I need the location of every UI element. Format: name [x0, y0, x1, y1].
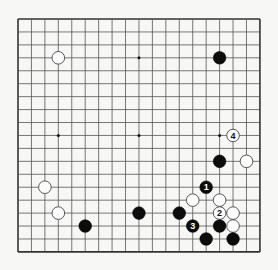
- white-stone-icon: [39, 181, 52, 194]
- white-stone: [39, 181, 52, 194]
- white-stone: [52, 52, 65, 65]
- star-point-icon: [218, 134, 221, 137]
- black-stone: [213, 52, 226, 65]
- white-stone-icon: [240, 155, 253, 168]
- move-number-label: 3: [190, 221, 195, 231]
- white-stone: [52, 207, 65, 220]
- black-stone-icon: [227, 233, 240, 246]
- white-stone: [213, 194, 226, 207]
- white-stone-icon: [213, 194, 226, 207]
- black-stone-icon: [213, 155, 226, 168]
- black-stone: [173, 207, 186, 220]
- star-point-icon: [137, 56, 140, 59]
- white-stone: [186, 194, 199, 207]
- white-stone-icon: [227, 220, 240, 233]
- black-stone-move-3: 3: [186, 220, 199, 233]
- star-point-icon: [57, 134, 60, 137]
- black-stone-icon: [133, 207, 146, 220]
- move-number-label: 1: [204, 182, 209, 192]
- black-stone: [213, 220, 226, 233]
- black-stone: [200, 233, 213, 246]
- black-stone: [79, 220, 92, 233]
- white-stone-move-2: 2: [213, 207, 226, 220]
- move-number-label: 2: [217, 208, 222, 218]
- black-stone-icon: [213, 220, 226, 233]
- go-board[interactable]: 4123: [0, 0, 278, 270]
- black-stone-icon: [200, 233, 213, 246]
- white-stone-icon: [186, 194, 199, 207]
- white-stone: [227, 207, 240, 220]
- black-stone-icon: [79, 220, 92, 233]
- white-stone-move-4: 4: [227, 129, 240, 142]
- black-stone: [213, 155, 226, 168]
- white-stone: [227, 220, 240, 233]
- go-board-canvas[interactable]: 4123: [0, 0, 278, 270]
- black-stone: [133, 207, 146, 220]
- black-stone-move-1: 1: [200, 181, 213, 194]
- black-stone: [227, 233, 240, 246]
- black-stone-icon: [213, 52, 226, 65]
- white-stone-icon: [52, 207, 65, 220]
- star-point-icon: [137, 134, 140, 137]
- white-stone-icon: [227, 207, 240, 220]
- black-stone-icon: [173, 207, 186, 220]
- white-stone: [240, 155, 253, 168]
- white-stone-icon: [52, 52, 65, 65]
- move-number-label: 4: [231, 131, 236, 141]
